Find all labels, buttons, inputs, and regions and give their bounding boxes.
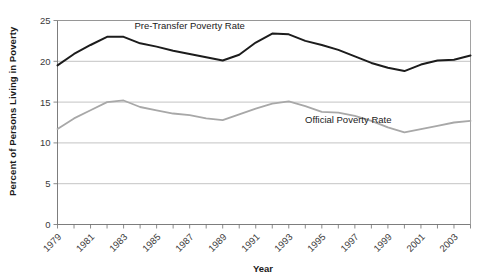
chart-canvas: 0510152025 19791981198319851987198919911… [0,0,493,279]
y-axis-label: Percent of Persons Living in Poverty [7,26,18,196]
y-tick-label-10: 10 [40,137,51,148]
poverty-rate-line-chart: 0510152025 19791981198319851987198919911… [0,0,493,279]
annotation-pre-transfer-poverty-rate: Pre-Transfer Poverty Rate [134,20,245,31]
y-tick-label-25: 25 [40,15,51,26]
y-tick-label-20: 20 [40,56,51,67]
y-tick-label-5: 5 [45,178,50,189]
y-tick-label-15: 15 [40,97,51,108]
y-tick-label-0: 0 [45,219,50,230]
annotation-official-poverty-rate: Official Poverty Rate [305,114,391,125]
x-axis-label: Year [253,263,273,274]
